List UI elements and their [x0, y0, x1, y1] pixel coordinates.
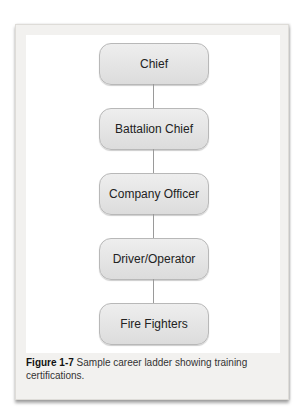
node-driver-operator: Driver/Operator	[99, 238, 209, 280]
connector-line	[153, 214, 154, 239]
connector-line	[153, 279, 154, 304]
figure-label: Figure 1-7	[26, 357, 74, 368]
node-battalion-chief: Battalion Chief	[99, 108, 209, 150]
node-chief: Chief	[99, 43, 209, 85]
diagram-area: Chief Battalion Chief Company Officer Dr…	[26, 35, 280, 353]
connector-line	[153, 149, 154, 174]
figure-caption: Figure 1-7 Sample career ladder showing …	[26, 356, 276, 382]
figure-card: Chief Battalion Chief Company Officer Dr…	[15, 24, 289, 400]
connector-line	[153, 84, 154, 109]
node-company-officer: Company Officer	[99, 173, 209, 215]
node-fire-fighters: Fire Fighters	[99, 303, 209, 345]
